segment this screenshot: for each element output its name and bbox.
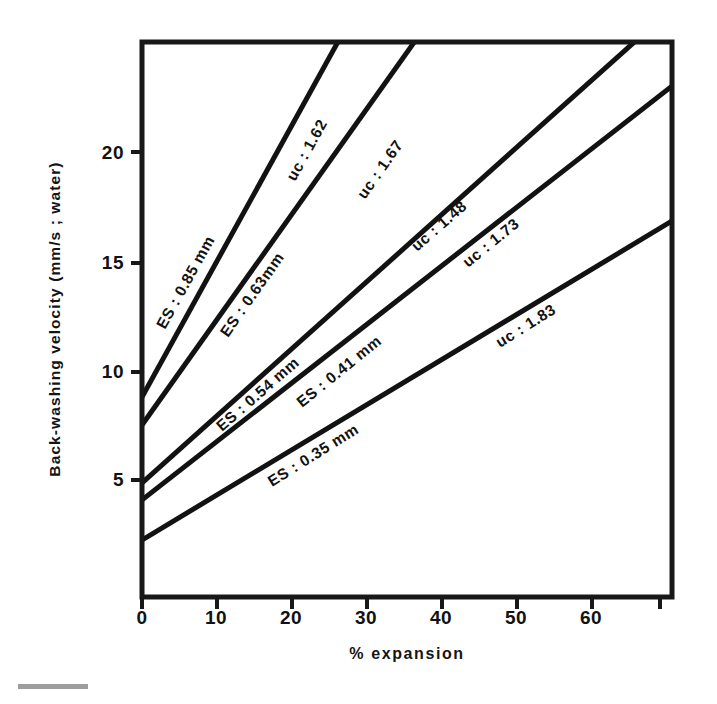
series-label-es-0-63: ES : 0.63mm: [217, 249, 288, 340]
series-label-uc-1-48: uc : 1.48: [408, 197, 470, 254]
series-line-es-0-85: [142, 20, 350, 397]
series-line-es-0-41: [142, 86, 672, 500]
chart-figure: Back-washing velocity (mm/s ; water) % e…: [0, 0, 717, 704]
plot-frame: [142, 42, 672, 597]
series-lines: [142, 20, 672, 540]
series-label-es-0-54: ES : 0.54 mm: [213, 353, 302, 434]
chart-plot-area: ES : 0.85 mm uc : 1.62 ES : 0.63mm uc : …: [0, 0, 717, 704]
caption-rule: [18, 684, 88, 689]
series-label-uc-1-67: uc : 1.67: [354, 137, 407, 202]
series-line-es-0-35: [142, 221, 672, 540]
